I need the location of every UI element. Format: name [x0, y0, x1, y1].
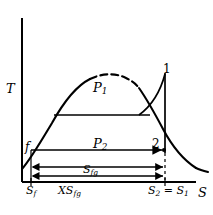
- tick-label-s2-text: S: [148, 184, 156, 197]
- isobar-p1-label-sub: 1: [102, 86, 108, 96]
- y-axis-label: T: [6, 82, 15, 95]
- sfg-dimension-label-text: S: [83, 163, 91, 176]
- tick-label-sf-text: S: [26, 184, 34, 197]
- ts-diagram-canvas: [0, 0, 213, 215]
- ts-diagram-figure: T S P1 P2 f 1 2 Sfg Sf XSfg S2 = S1: [0, 0, 213, 215]
- tick-label-sf-sub: f: [34, 189, 37, 198]
- tick-label-s1-sub: 1: [184, 189, 189, 198]
- state-f-label: f: [25, 141, 29, 153]
- isobar-p2-label: P2: [93, 137, 107, 152]
- tick-label-equals: =: [160, 184, 176, 197]
- state-1-label: 1: [163, 63, 171, 75]
- isobar-p1-label: P1: [93, 81, 107, 96]
- tick-label-xsfg: XSfg: [58, 185, 81, 198]
- state-2-label: 2: [152, 138, 160, 150]
- x-axis-label: S: [198, 186, 207, 199]
- state-2-marker: [162, 148, 166, 152]
- saturated-liquid-curve: [22, 79, 90, 169]
- tick-label-xsfg-sub: fg: [73, 189, 81, 198]
- tick-label-s2-equals-s1: S2 = S1: [148, 185, 189, 198]
- isobar-p2-label-sub: 2: [102, 142, 108, 152]
- tick-label-sf: Sf: [26, 185, 36, 198]
- isobar-p2-label-text: P: [93, 136, 102, 151]
- isobar-p1-label-text: P: [93, 80, 102, 95]
- tick-label-s1-text: S: [177, 184, 185, 197]
- sfg-dimension-label-sub: fg: [91, 168, 99, 177]
- tick-label-xsfg-text: XS: [58, 184, 73, 197]
- saturated-vapour-curve: [139, 88, 196, 168]
- sfg-dimension-label: Sfg: [83, 164, 98, 177]
- vapour-curve-tail: [196, 168, 208, 172]
